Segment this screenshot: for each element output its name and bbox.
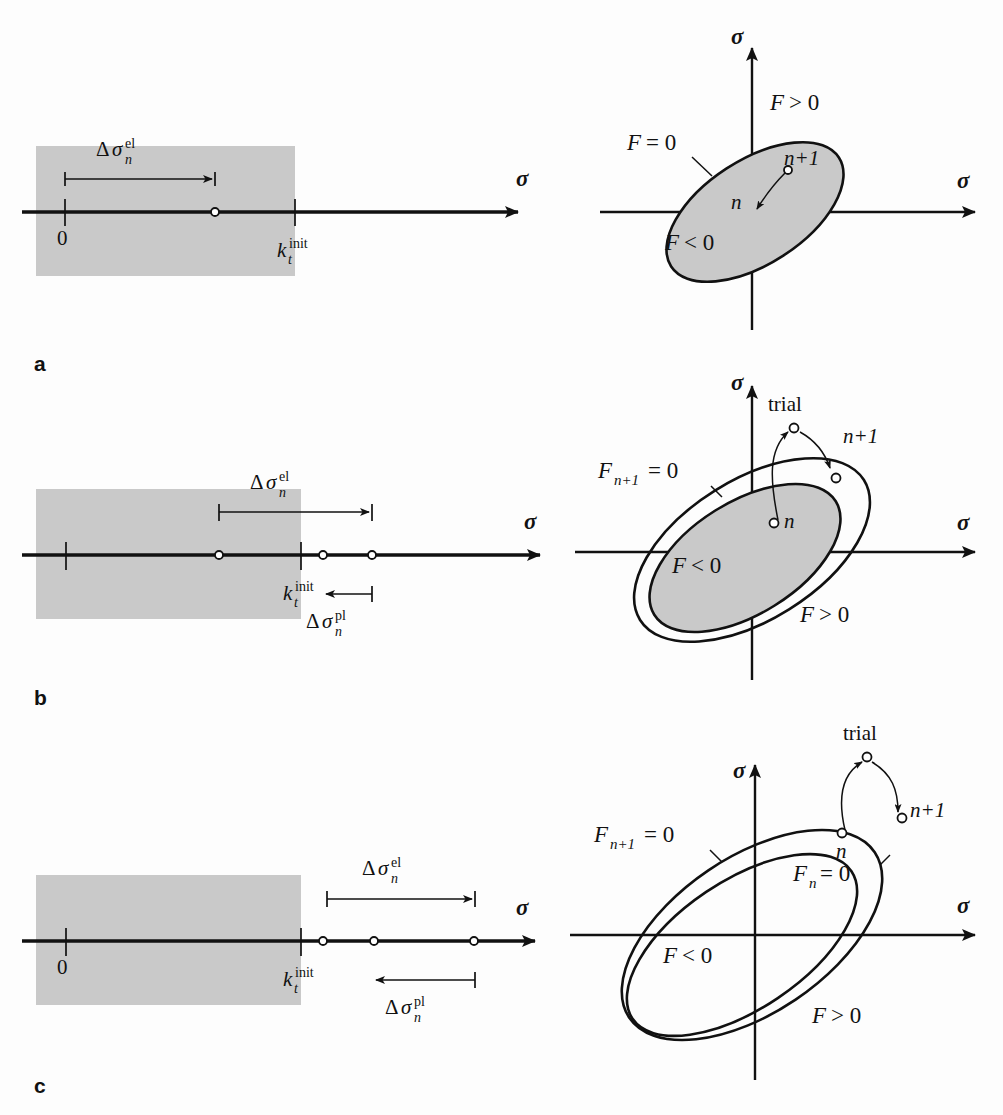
state-point-n-b[interactable] [770,519,779,528]
sub-n: n [335,624,342,639]
sup-pl: pl [414,994,425,1009]
state-point-trial[interactable] [368,551,376,559]
sup-el: el [391,855,401,870]
sigma-y-label-b: σ [731,370,744,395]
state-label-trial-b: trial [768,392,802,416]
state-point-n-c[interactable] [838,829,847,838]
gt-zero: > 0 [819,602,849,627]
state-label-n-plus-1-c: n+1 [910,798,945,822]
threshold-label-sup: init [295,579,314,594]
f-lt-0-label-a: F < 0 [664,230,714,255]
origin-label: 0 [57,955,68,979]
threshold-label-base: k [283,581,293,605]
state-label-n-plus-1-a: n+1 [784,146,819,170]
sigma-y-label-a: σ [731,24,744,49]
gt-zero: > 0 [831,1003,861,1028]
state-point-trial[interactable] [470,937,478,945]
state-point-n-plus-1-b[interactable] [832,474,841,483]
origin-label: 0 [57,226,68,250]
sub-n: n [279,485,286,500]
f-symbol: F [626,130,642,155]
sigma-axis-label-b-left: σ [524,509,537,534]
threshold-label-base: k [283,967,293,991]
f-subscript: n+1 [614,472,639,488]
state-label-n-b: n [784,509,795,533]
panel-letter-b: b [34,686,47,709]
f-gt-0-label-b: F > 0 [799,602,849,627]
eq-zero: = 0 [644,822,674,847]
state-label-n-c: n [836,839,847,863]
f-lt-0-label-c: F < 0 [662,943,712,968]
sub-n: n [414,1010,421,1025]
lt-zero: < 0 [682,943,712,968]
f-symbol: F [671,553,687,578]
sigma-symbol: σ [378,856,390,880]
state-point-n-plus-1[interactable] [370,937,378,945]
state-point-n-plus-1-c[interactable] [898,814,907,823]
state-point-n-plus-1[interactable] [211,208,219,216]
sigma-axis-label-a-left: σ [516,166,529,191]
state-point-n[interactable] [319,937,327,945]
figure-canvas: 0 k t init Δ σ el n σ [0,0,1003,1115]
state-label-n-a: n [731,190,742,214]
sigma-symbol: σ [112,137,124,161]
sigma-symbol: σ [401,995,413,1019]
sub-n: n [391,871,398,886]
lt-zero: < 0 [691,553,721,578]
state-label-n-plus-1-b: n+1 [843,424,878,448]
state-point-trial-c[interactable] [863,753,872,762]
f-symbol: F [662,943,678,968]
f-symbol: F [792,861,808,886]
f-symbol: F [597,458,613,483]
f-eq-0-label-a: F = 0 [626,130,676,155]
state-label-trial-c: trial [843,721,877,745]
panel-letter-c: c [34,1074,46,1097]
f-symbol: F [664,230,680,255]
figure-root: 0 k t init Δ σ el n σ [0,0,1003,1115]
threshold-label-base: k [277,238,287,262]
sigma-x-label-a: σ [957,168,970,193]
sigma-x-label-c: σ [957,893,970,918]
sup-pl: pl [335,608,346,623]
sigma-y-label-c: σ [733,758,746,783]
state-point-n-plus-1[interactable] [319,551,327,559]
threshold-label-sup: init [289,236,308,251]
panel-letter-a: a [34,352,46,375]
lt-zero: < 0 [684,230,714,255]
eq-zero: = 0 [648,458,678,483]
sigma-symbol: σ [322,609,334,633]
f-symbol: F [811,1003,827,1028]
f-subscript: n+1 [610,836,635,852]
f-symbol: F [593,822,609,847]
sigma-axis-label-c-left: σ [516,895,529,920]
f-subscript: n [809,875,817,891]
f-gt-0-label-c: F > 0 [811,1003,861,1028]
sup-el: el [125,136,135,151]
state-point-n[interactable] [215,551,223,559]
sup-el: el [279,469,289,484]
f-symbol: F [799,602,815,627]
sigma-symbol: σ [266,470,278,494]
f-symbol: F [769,90,785,115]
delta-symbol: Δ [306,609,320,633]
delta-symbol: Δ [250,470,264,494]
gt-zero: > 0 [789,90,819,115]
eq-zero: = 0 [820,861,850,886]
delta-symbol: Δ [385,995,399,1019]
eq-zero: = 0 [646,130,676,155]
delta-symbol: Δ [96,137,110,161]
sigma-x-label-b: σ [957,510,970,535]
delta-symbol: Δ [362,856,376,880]
sub-n: n [125,152,132,167]
state-point-trial-b[interactable] [790,424,799,433]
f-lt-0-label-b: F < 0 [671,553,721,578]
f-gt-0-label-a: F > 0 [769,90,819,115]
threshold-label-sup: init [295,965,314,980]
